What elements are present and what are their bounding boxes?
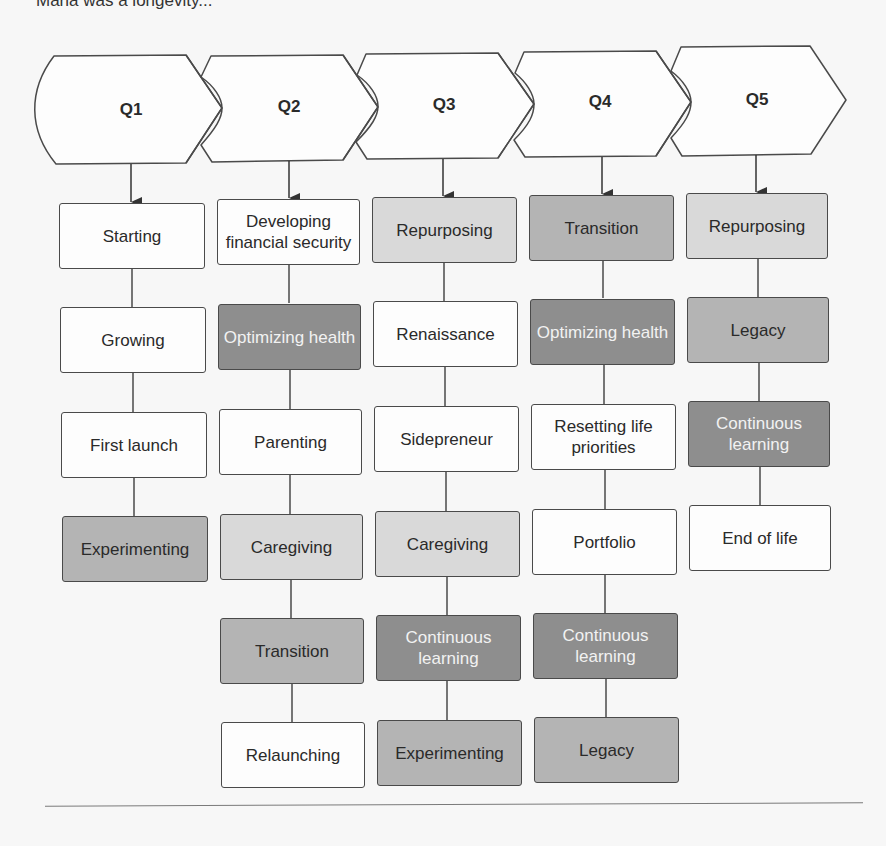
stage-q4-legacy: Legacy — [534, 717, 679, 783]
stage-q5-end-of-life: End of life — [689, 505, 831, 571]
header-q4: Q4 — [589, 92, 612, 112]
stage-q4-portfolio: Portfolio — [532, 509, 677, 575]
stage-q3-experimenting: Experimenting — [377, 720, 522, 786]
stage-q1-starting: Starting — [59, 203, 205, 269]
header-q5: Q5 — [746, 90, 769, 110]
stage-q2-caregiving: Caregiving — [220, 514, 363, 580]
stage-q3-continuous-learning: Continuous learning — [376, 615, 521, 681]
stage-q2-relaunching: Relaunching — [221, 722, 365, 788]
header-q1: Q1 — [120, 100, 143, 120]
stage-q2-parenting: Parenting — [219, 409, 362, 475]
stage-q5-repurposing: Repurposing — [686, 193, 828, 259]
stage-q4-resetting-life-priorities: Resetting life priorities — [531, 404, 676, 470]
stage-q2-developing-financial-security: Developing financial security — [217, 199, 360, 265]
stage-q5-continuous-learning: Continuous learning — [688, 401, 830, 467]
stage-q2-transition: Transition — [220, 618, 364, 684]
stage-q4-transition: Transition — [529, 195, 674, 261]
stage-q1-experimenting: Experimenting — [62, 516, 208, 582]
stage-q3-sidepreneur: Sidepreneur — [374, 406, 519, 472]
stage-q3-repurposing: Repurposing — [372, 197, 517, 263]
stage-q2-optimizing-health: Optimizing health — [218, 304, 361, 370]
stage-q3-caregiving: Caregiving — [375, 511, 520, 577]
header-q3: Q3 — [433, 95, 456, 115]
stage-q3-renaissance: Renaissance — [373, 301, 518, 367]
stage-q4-continuous-learning: Continuous learning — [533, 613, 678, 679]
header-q2: Q2 — [278, 97, 301, 117]
stage-q1-first-launch: First launch — [61, 412, 207, 478]
stage-q1-growing: Growing — [60, 307, 206, 373]
stage-q5-legacy: Legacy — [687, 297, 829, 363]
stage-q4-optimizing-health: Optimizing health — [530, 299, 675, 365]
